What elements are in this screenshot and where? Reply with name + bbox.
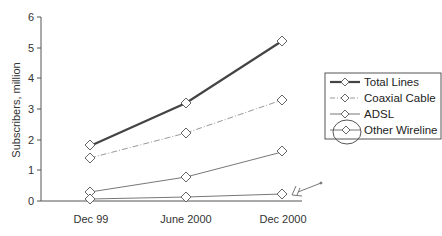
y-axis bbox=[37, 17, 41, 201]
svg-text:Total Lines: Total Lines bbox=[364, 76, 419, 88]
data-markers bbox=[85, 36, 287, 204]
y-tick-label: 5 bbox=[28, 42, 34, 54]
y-tick-label: 1 bbox=[28, 164, 34, 176]
svg-text:Coaxial Cable: Coaxial Cable bbox=[364, 92, 436, 104]
x-tick-label: June 2000 bbox=[160, 213, 211, 225]
diamond-marker bbox=[277, 95, 287, 105]
annotation-arrow-icon bbox=[292, 182, 322, 196]
y-tick-label: 2 bbox=[28, 134, 34, 146]
y-axis-title: Subscribers, million bbox=[10, 62, 22, 157]
legend: Total Lines Coaxial Cable ADSL Other Wir… bbox=[325, 73, 441, 144]
diamond-marker bbox=[181, 128, 191, 138]
y-tick-label: 4 bbox=[28, 72, 34, 84]
diamond-marker bbox=[85, 194, 95, 204]
y-tick-label: 6 bbox=[28, 11, 34, 23]
diamond-marker bbox=[85, 153, 95, 163]
diamond-marker bbox=[277, 189, 287, 199]
x-tick-label: Dec 99 bbox=[74, 213, 109, 225]
y-tick-label: 3 bbox=[28, 103, 34, 115]
diamond-marker bbox=[85, 140, 95, 150]
diamond-marker bbox=[277, 146, 287, 156]
x-tick-label: Dec 2000 bbox=[259, 213, 306, 225]
svg-text:ADSL: ADSL bbox=[364, 108, 395, 120]
y-tick-label: 0 bbox=[28, 195, 34, 207]
svg-text:Other Wireline: Other Wireline bbox=[364, 124, 438, 136]
legend-item-other-wireline: Other Wireline bbox=[330, 124, 438, 136]
diamond-marker bbox=[181, 172, 191, 182]
line-chart: 0 1 2 3 4 5 6 Subscribers, million Dec 9… bbox=[0, 0, 442, 236]
